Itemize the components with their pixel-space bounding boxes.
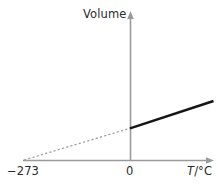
x-axis-arrowhead (206, 157, 214, 164)
extrapolation-dashed-line (24, 128, 131, 160)
y-axis-label: Volume (83, 8, 126, 21)
graph-canvas (0, 0, 224, 189)
volume-temperature-figure: Volume −273 0 T/°C (0, 0, 224, 189)
measured-volume-line (130, 101, 214, 128)
x-tick-label-origin: 0 (126, 165, 133, 178)
x-axis-label-unit: °C (198, 164, 212, 178)
x-axis-label: T/°C (187, 165, 212, 178)
x-tick-label-absolute-zero: −273 (7, 165, 39, 178)
y-axis-arrowhead (127, 11, 134, 19)
